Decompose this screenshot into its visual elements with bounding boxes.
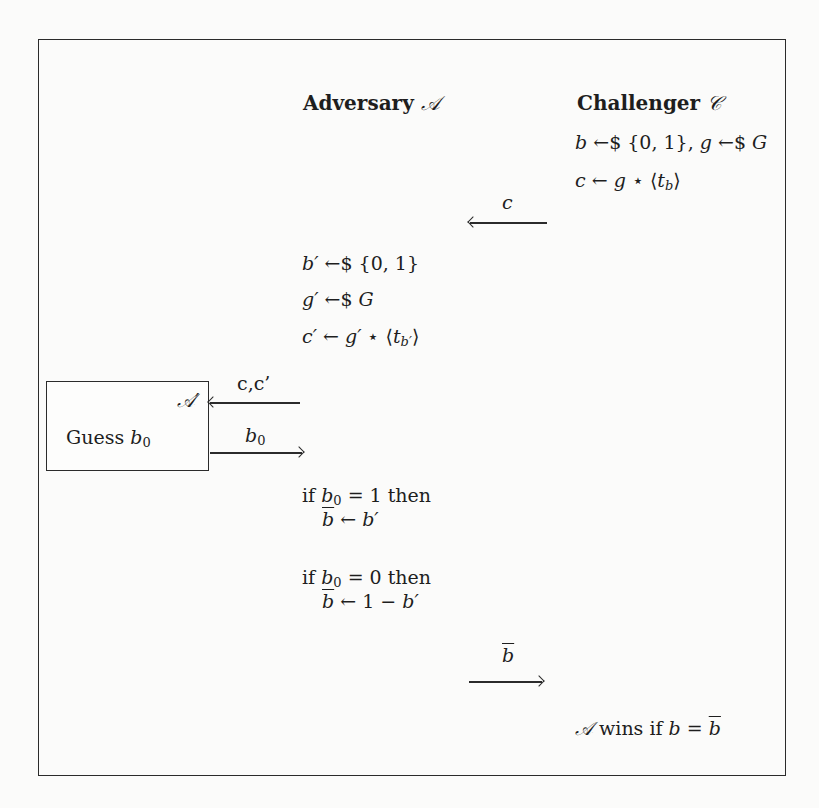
var-g: g [700,131,712,153]
var-b: b [130,426,142,448]
arrow-right-icon [210,452,302,454]
guess-label: Guess b0 [66,426,151,454]
sample-arrow: ←$ [712,131,752,153]
var-b-bar: b [709,717,721,739]
var-b-prime: b′ [402,590,418,612]
star-op: ⋆ ⟨ [626,169,658,191]
message-c-label: c [502,191,513,213]
decision-then-0: b ← 1 − b′ [322,590,419,612]
angle-close: ⟩ [412,325,419,347]
equals: = [681,717,709,739]
var-t: t [657,169,665,191]
sample-arrow: ←$ [318,288,358,310]
adversary-step-1: b′ ←$ {0, 1} [302,252,419,274]
group-G: G [359,288,374,310]
var-c: c [575,169,586,191]
challenger-label: Challenger [577,91,707,115]
subscript-b-prime: b′ [401,334,412,349]
sample-bit: ←$ {0, 1} [318,252,419,274]
win-text: wins if [593,717,669,739]
subscript-0: 0 [142,435,150,450]
var-t: t [393,325,401,347]
message-cc-label: c,c’ [237,372,270,394]
message-b0-label: b0 [245,424,265,452]
var-b: b [669,717,681,739]
adversary-header: Adversary 𝒜 [303,92,440,114]
assign-arrow: ← [317,325,345,347]
if-keyword: if [302,566,321,588]
decision-then-1: b ← b′ [322,508,379,530]
arrow-left-icon [470,222,547,224]
var-b: b [321,484,333,506]
var-g-prime: g′ [345,325,361,347]
challenger-setup-line-2: c ← g ⋆ ⟨tb⟩ [575,169,681,197]
challenger-header: Challenger 𝒞 [577,92,722,114]
if-keyword: if [302,484,321,506]
var-b-prime: b′ [302,252,318,274]
message-bbar-label: b [502,644,514,666]
assign-arrow: ← 1 − [334,590,402,612]
win-condition: 𝒜 wins if b = b [575,717,721,739]
var-b-bar: b [322,590,334,612]
adversary-step-3: c′ ← g′ ⋆ ⟨tb′⟩ [302,325,419,353]
challenger-symbol: 𝒞 [707,91,722,115]
arrow-right-icon [469,681,542,683]
var-b-bar: b [322,508,334,530]
var-b: b [321,566,333,588]
subscript-0: 0 [257,433,265,448]
var-g: g [614,169,626,191]
assign-arrow: ← [334,508,362,530]
challenger-setup-line-1: b ←$ {0, 1}, g ←$ G [575,131,767,153]
condition-rest: = 0 then [342,566,431,588]
adversary-symbol: 𝒜 [575,717,593,739]
guess-text: Guess [66,426,130,448]
subscript-0: 0 [333,493,341,508]
condition-rest: = 1 then [342,484,431,506]
adversary-step-2: g′ ←$ G [302,288,374,310]
group-G: G [752,131,767,153]
adversary-label: Adversary [303,91,421,115]
arrow-left-icon [210,402,300,404]
assign-arrow: ← [586,169,614,191]
sub-adversary-symbol: 𝒜′ [177,389,199,411]
subscript-0: 0 [333,575,341,590]
var-g-prime: g′ [302,288,318,310]
var-b-prime: b′ [362,508,378,530]
var-b: b [575,131,587,153]
adversary-symbol: 𝒜 [421,91,440,115]
var-b: b [245,424,257,446]
angle-close: ⟩ [673,169,680,191]
var-c-prime: c′ [302,325,317,347]
sample-bit: ←$ {0, 1}, [587,131,700,153]
star-op: ⋆ ⟨ [361,325,393,347]
